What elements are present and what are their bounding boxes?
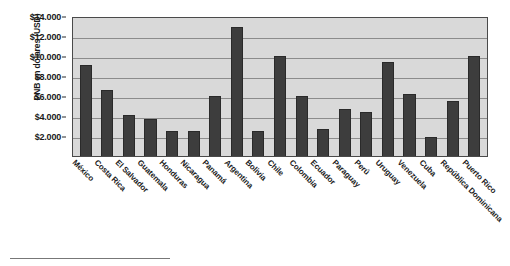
bar-slot	[334, 18, 356, 156]
bar-slot	[97, 18, 119, 156]
bar-slot	[161, 18, 183, 156]
bar[interactable]	[360, 112, 372, 156]
y-axis-tick-mark	[62, 117, 66, 118]
bar-slot	[291, 18, 313, 156]
bar[interactable]	[231, 27, 243, 156]
bar-slot	[312, 18, 334, 156]
bar[interactable]	[101, 90, 113, 156]
x-axis-tick-label: México	[70, 158, 95, 183]
plot-area	[72, 17, 488, 157]
bar-slot	[377, 18, 399, 156]
bar[interactable]	[209, 96, 221, 156]
x-axis-tick-labels: MéxicoCosta RicaEl SalvadorGuatemalaHond…	[72, 158, 488, 258]
y-axis-tick-mark	[62, 37, 66, 38]
bar-slot	[442, 18, 464, 156]
bar-chart: PNB en dólares (USD) $2.000$4.000$6.000$…	[0, 0, 510, 266]
y-axis-tick-mark	[62, 97, 66, 98]
bar[interactable]	[80, 65, 92, 156]
bar[interactable]	[425, 137, 437, 156]
bar-slot	[183, 18, 205, 156]
bar[interactable]	[296, 96, 308, 156]
bar[interactable]	[144, 119, 156, 156]
bar-slot	[420, 18, 442, 156]
y-axis-tick-label: $14.000	[30, 12, 61, 22]
bars-container	[73, 18, 487, 156]
bar[interactable]	[382, 62, 394, 156]
y-axis-tick-labels: $2.000$4.000$6.000$8.000$10.000$12.000$1…	[8, 17, 66, 157]
bar-slot	[463, 18, 485, 156]
y-axis-tick-label: $6.000	[35, 92, 61, 102]
bar[interactable]	[274, 56, 286, 156]
bar-slot	[248, 18, 270, 156]
y-axis-tick-mark	[62, 57, 66, 58]
bar[interactable]	[188, 131, 200, 156]
y-axis-tick-mark	[62, 137, 66, 138]
x-axis-tick-label: Chile	[266, 158, 286, 178]
bar[interactable]	[252, 131, 264, 156]
y-axis-tick-mark	[62, 77, 66, 78]
y-axis-tick-mark	[62, 17, 66, 18]
bar[interactable]	[317, 129, 329, 156]
bar-slot	[118, 18, 140, 156]
y-axis-tick-label: $12.000	[30, 32, 61, 42]
bar-slot	[75, 18, 97, 156]
x-axis-tick-label: Cuba	[417, 158, 437, 178]
footnote-separator	[10, 258, 170, 259]
bar[interactable]	[447, 101, 459, 156]
bar[interactable]	[123, 115, 135, 156]
bar-slot	[269, 18, 291, 156]
bar-slot	[204, 18, 226, 156]
x-axis-tick-label: Perú	[352, 158, 371, 177]
y-axis-tick-label: $10.000	[30, 52, 61, 62]
bar[interactable]	[339, 109, 351, 156]
bar[interactable]	[166, 131, 178, 156]
y-axis-tick-label: $8.000	[35, 72, 61, 82]
bar[interactable]	[403, 94, 415, 156]
y-axis-tick-label: $4.000	[35, 112, 61, 122]
y-axis-tick-label: $2.000	[35, 132, 61, 142]
bar-slot	[399, 18, 421, 156]
bar-slot	[226, 18, 248, 156]
bar-slot	[356, 18, 378, 156]
bar-slot	[140, 18, 162, 156]
bar[interactable]	[468, 56, 480, 156]
